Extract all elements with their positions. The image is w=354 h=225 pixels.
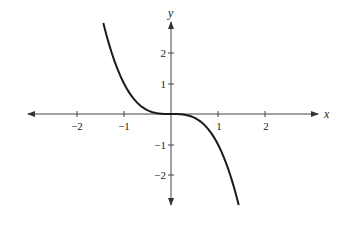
y-tick-label: 2 (161, 47, 167, 59)
x-tick-label: 1 (216, 120, 222, 132)
x-tick-label: 2 (263, 120, 269, 132)
x-tick-label: −2 (71, 120, 83, 132)
y-tick-label: −1 (154, 139, 166, 151)
cubic-function-graph: −2 −1 1 2 2 1 −1 −2 x y (0, 0, 354, 225)
y-tick-label: −2 (154, 169, 166, 181)
y-axis-label: y (167, 6, 174, 20)
x-tick-label: −1 (118, 120, 130, 132)
x-axis-label: x (323, 107, 330, 121)
y-tick-label: 1 (161, 78, 167, 90)
